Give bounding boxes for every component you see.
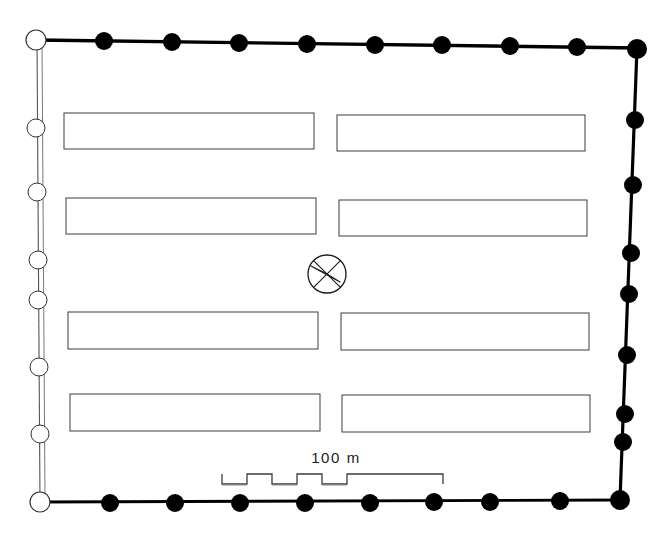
building-block (70, 394, 320, 431)
hollow-post-marker (27, 119, 45, 137)
filled-post-marker (433, 36, 451, 54)
filled-post-marker (481, 493, 499, 511)
building-block (66, 198, 316, 234)
hollow-post-marker-corner-top-left (26, 30, 46, 50)
filled-post-marker (163, 33, 181, 51)
filled-post-marker (568, 38, 586, 56)
filled-post-marker (501, 37, 519, 55)
hollow-post-marker (31, 425, 49, 443)
filled-post-marker (231, 494, 249, 512)
filled-post-marker-corner-bottom-right (610, 490, 630, 510)
site-plan-figure: 100 m (0, 0, 666, 546)
wall-bottom (40, 500, 620, 502)
filled-post-marker (101, 494, 119, 512)
building-block (64, 113, 314, 149)
filled-post-marker (624, 176, 642, 194)
filled-post-marker (361, 494, 379, 512)
filled-post-marker (298, 35, 316, 53)
building-block (68, 312, 318, 349)
building-block (342, 395, 590, 432)
scale-bar-graphic (222, 474, 443, 484)
hollow-post-marker-corner-bottom-left (30, 492, 50, 512)
filled-post-marker (622, 244, 640, 262)
hollow-post-marker (29, 251, 47, 269)
hollow-post-marker (28, 183, 46, 201)
filled-post-marker-corner-top-right (627, 39, 647, 59)
wall-top (37, 40, 637, 48)
filled-post-marker (626, 111, 644, 129)
hollow-post-marker (30, 358, 48, 376)
filled-post-marker (95, 32, 113, 50)
hollow-post-marker (29, 291, 47, 309)
site-plan-canvas: 100 m (0, 0, 666, 546)
scale-bar: 100 m (222, 449, 443, 485)
filled-post-marker (166, 494, 184, 512)
scale-bar-label: 100 m (311, 449, 361, 466)
building-block (339, 200, 587, 236)
filled-post-marker (230, 34, 248, 52)
filled-post-marker (296, 494, 314, 512)
filled-post-marker (425, 493, 443, 511)
building-block (337, 115, 585, 151)
north-arrow-compass (308, 255, 346, 293)
filled-post-marker (614, 433, 632, 451)
filled-post-marker (616, 405, 634, 423)
filled-post-marker (620, 285, 638, 303)
building-block (341, 313, 589, 350)
filled-post-marker (618, 346, 636, 364)
filled-post-marker (366, 36, 384, 54)
filled-post-marker (551, 492, 569, 510)
